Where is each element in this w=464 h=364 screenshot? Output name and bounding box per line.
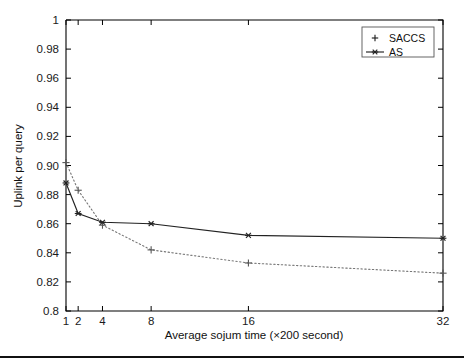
- series-line-as: [66, 183, 443, 238]
- plot-axes: [66, 20, 443, 311]
- y-tick-label: 0.8: [43, 305, 59, 317]
- axis-frame: [66, 20, 443, 311]
- y-tick-label: 0.92: [37, 130, 59, 142]
- series-line-saccs: [66, 163, 443, 274]
- x-tick-label: 8: [148, 315, 154, 327]
- legend-label: SACCS: [389, 32, 425, 44]
- y-axis-ticks: 0.80.820.840.860.880.900.920.940.960.981: [37, 14, 443, 317]
- x-tick-label: 32: [437, 315, 450, 327]
- x-tick-label: 4: [99, 315, 106, 327]
- x-axis-ticks: 12481632: [63, 20, 450, 327]
- x-axis-title: Average sojum time (×200 second): [165, 329, 344, 341]
- y-tick-label: 0.96: [37, 72, 59, 84]
- y-tick-label: 0.90: [37, 160, 59, 172]
- plot-series-group: [62, 159, 446, 277]
- x-tick-label: 16: [242, 315, 255, 327]
- y-tick-label: 0.88: [37, 189, 59, 201]
- x-tick-label: 2: [75, 315, 81, 327]
- y-tick-label: 0.84: [37, 247, 60, 259]
- y-tick-label: 0.94: [37, 101, 60, 113]
- y-tick-label: 0.98: [37, 43, 59, 55]
- chart-figure: 0.80.820.840.860.880.900.920.940.960.981…: [0, 0, 464, 364]
- series-markers-as: [63, 181, 447, 241]
- legend-label: AS: [389, 46, 403, 58]
- y-tick-label: 0.82: [37, 276, 59, 288]
- chart-legend: SACCSAS: [362, 27, 434, 58]
- y-tick-label: 1: [53, 14, 59, 26]
- y-axis-title: Uplink per query: [12, 124, 24, 208]
- footer-rule: [0, 356, 464, 358]
- y-tick-label: 0.86: [37, 218, 59, 230]
- series-markers-saccs: [62, 159, 446, 277]
- x-tick-label: 1: [63, 315, 69, 327]
- uplink-per-query-chart: 0.80.820.840.860.880.900.920.940.960.981…: [0, 0, 464, 364]
